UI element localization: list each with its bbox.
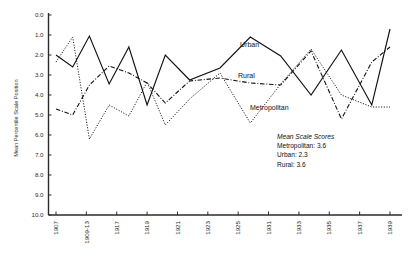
x-axis-tick-label: 1939 (386, 220, 393, 234)
note-urban: Urban: 2.3 (277, 151, 308, 158)
x-axis-tick-label: 1907 (52, 220, 59, 234)
y-axis-tick-label: 10.0 (31, 211, 44, 218)
y-axis-tick-label: 4.0 (35, 91, 44, 98)
note-title: Mean Scale Scores (277, 133, 335, 140)
x-axis-tick-label: 1909-13 (83, 220, 90, 243)
x-axis-tick-label: 1917 (113, 220, 120, 234)
y-axis-tick-label: 9.0 (35, 191, 44, 198)
y-axis-tick-label: 0.0 (35, 11, 44, 18)
y-axis-tick-label: 3.0 (35, 71, 44, 78)
chart-container: 0.01.02.03.04.05.06.07.08.09.010.0190719… (0, 0, 411, 267)
y-axis-tick-label: 7.0 (35, 151, 44, 158)
x-axis-tick-label: 1937 (356, 220, 363, 234)
x-axis-tick-label: 1925 (234, 220, 241, 234)
series-line-rural (56, 47, 390, 119)
series-group (56, 29, 390, 139)
y-axis-tick-label: 2.0 (35, 51, 44, 58)
x-axis-tick-label: 1933 (295, 220, 302, 234)
series-line-urban (56, 29, 390, 105)
x-axis-tick-label: 1931 (265, 220, 272, 234)
y-axis-tick-label: 8.0 (35, 171, 44, 178)
y-axis-tick-label: 5.0 (35, 111, 44, 118)
note-rural: Rural: 3.6 (277, 161, 306, 168)
x-axis-tick-label: 1923 (204, 220, 211, 234)
line-chart-svg: 0.01.02.03.04.05.06.07.08.09.010.0190719… (0, 0, 411, 267)
x-axis-tick-label: 1919 (143, 220, 150, 234)
y-axis-title: Mean Percentile Scale Position (13, 79, 19, 156)
chart-text-group: Mean Percentile Scale PositionUrbanMetro… (13, 41, 335, 168)
x-axis-tick-label: 1935 (325, 220, 332, 234)
y-axis-tick-label: 1.0 (35, 31, 44, 38)
series-label-metropolitan: Metropolitan (250, 104, 289, 112)
series-label-urban: Urban (240, 41, 259, 48)
x-axis-tick-label: 1921 (174, 220, 181, 234)
note-metropolitan: Metropolitan: 3.6 (277, 142, 326, 150)
y-axis-tick-label: 6.0 (35, 131, 44, 138)
series-label-rural: Rural (238, 72, 255, 79)
